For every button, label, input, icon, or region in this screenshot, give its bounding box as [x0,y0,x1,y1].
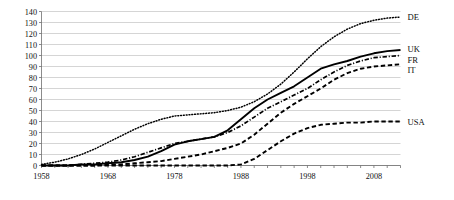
x-tick-label: 1978 [166,172,182,181]
axes-group [39,12,401,169]
line-chart: 0102030405060708090100110120130140 19581… [0,0,454,200]
x-axis-tick-labels: 195819681978198819982008 [33,172,382,181]
y-tick-label: 80 [29,74,37,83]
y-tick-label: 20 [29,140,37,149]
legend-label-uk: UK [408,44,421,54]
x-tick-label: 1988 [233,172,249,181]
series-line-de [42,17,401,164]
x-tick-label: 1968 [100,172,116,181]
legend-label-fr: FR [408,55,419,65]
y-tick-label: 50 [29,107,37,116]
legend-label-it: IT [408,65,417,75]
legend-label-usa: USA [408,117,426,127]
y-tick-label: 100 [25,52,37,61]
y-tick-label: 60 [29,96,37,105]
y-tick-label: 90 [29,63,37,72]
y-tick-label: 120 [25,30,37,39]
chart-canvas: 0102030405060708090100110120130140 19581… [0,0,454,200]
legend-group: DEUKFRITUSA [408,12,426,127]
y-tick-label: 130 [25,19,37,28]
gridlines-group [42,12,401,166]
y-tick-label: 30 [29,129,37,138]
legend-label-de: DE [408,12,419,22]
x-tick-label: 2008 [366,172,382,181]
y-tick-label: 110 [25,41,37,50]
y-tick-label: 40 [29,118,37,127]
y-tick-label: 10 [29,151,37,160]
y-tick-label: 0 [33,162,37,171]
series-line-it [42,64,401,165]
y-tick-label: 70 [29,85,37,94]
y-tick-label: 140 [25,8,37,17]
y-axis-tick-labels: 0102030405060708090100110120130140 [25,8,37,171]
x-tick-label: 1998 [299,172,315,181]
x-tick-label: 1958 [33,172,49,181]
